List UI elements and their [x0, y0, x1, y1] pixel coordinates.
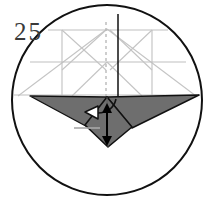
figure-canvas: 25	[0, 0, 214, 197]
origami-step-figure: 25	[0, 0, 214, 197]
step-number: 25	[14, 18, 43, 45]
